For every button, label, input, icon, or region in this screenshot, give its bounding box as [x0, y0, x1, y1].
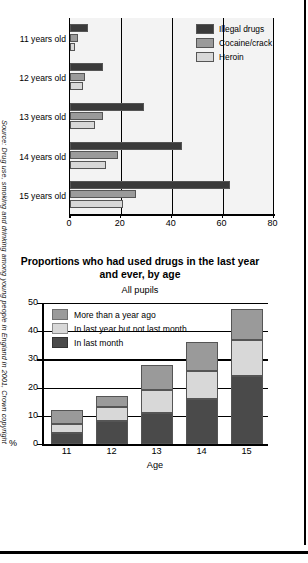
bottom-chart-bar-segment [96, 396, 128, 407]
top-chart-bar [70, 190, 136, 198]
top-chart-bar [70, 82, 83, 90]
top-chart-x-tick-label: 40 [166, 218, 176, 228]
legend-label-in-last-month: In last month [74, 338, 123, 348]
chart-page: 020406080 11 years old12 years old13 yea… [0, 0, 308, 563]
bottom-chart-bar-segment [96, 407, 128, 421]
bottom-chart-x-tick-label: 15 [241, 446, 251, 456]
legend-swatch-in-last-year-not-last-month [52, 323, 68, 334]
bottom-chart-bar-segment [141, 365, 173, 390]
top-chart-bar [70, 112, 103, 120]
legend-swatch-more-than-a-year-ago [52, 309, 68, 320]
top-chart-category-label: 11 years old [0, 34, 66, 44]
legend-swatch-cocaine-crack [196, 38, 214, 48]
top-chart-bar [70, 151, 118, 159]
bottom-chart-bar-segment [96, 421, 128, 444]
bottom-chart-bar-segment [141, 413, 173, 444]
legend-item-more-than-a-year-ago: More than a year ago [52, 309, 187, 320]
bottom-chart-x-tick-label: 11 [62, 446, 72, 456]
top-chart-x-tick-label: 20 [115, 218, 125, 228]
legend-item-in-last-year-not-last-month: In last year but not last month [52, 323, 187, 334]
top-chart-x-tick-label: 80 [267, 218, 277, 228]
top-chart-bar [70, 121, 95, 129]
bottom-chart-bar-segment [141, 390, 173, 413]
top-chart: 020406080 11 years old12 years old13 yea… [0, 10, 276, 225]
legend-item-in-last-month: In last month [52, 337, 187, 348]
bottom-chart-bar-segment [51, 410, 83, 424]
legend-label-in-last-year-not-last-month: In last year but not last month [74, 324, 187, 334]
bottom-chart-bar-segment [231, 340, 263, 377]
top-chart-bar [70, 43, 75, 51]
source-note: Source: Drug use, smoking and drinking a… [0, 120, 9, 420]
bottom-chart-bar-segment [231, 376, 263, 444]
bottom-chart-legend: More than a year ago In last year but no… [52, 309, 187, 351]
frame-right-rule [304, 0, 306, 545]
legend-item-cocaine-crack: Cocaine/crack [196, 38, 272, 48]
legend-label-heroin: Heroin [219, 52, 244, 62]
top-chart-category-label: 15 years old [0, 191, 66, 201]
bottom-chart-bar-segment [186, 371, 218, 399]
bottom-chart: Proportions who had used drugs in the la… [0, 255, 276, 540]
top-chart-x-tick-label: 60 [217, 218, 227, 228]
bottom-chart-y-unit-label: % [9, 438, 17, 448]
top-chart-bar [70, 73, 85, 81]
legend-item-illegal-drugs: Illegal drugs [196, 24, 272, 34]
bottom-chart-bar-segment [186, 399, 218, 444]
legend-item-heroin: Heroin [196, 52, 272, 62]
legend-swatch-illegal-drugs [196, 24, 214, 34]
page-title: Proportions who had used drugs in the la… [14, 255, 266, 281]
top-chart-bar [70, 34, 78, 42]
top-chart-bar [70, 200, 123, 208]
top-chart-x-tick-label: 0 [66, 218, 71, 228]
top-chart-bar [70, 181, 230, 189]
bottom-chart-x-axis-title: Age [42, 460, 268, 470]
bottom-chart-bar-segment [231, 309, 263, 340]
top-chart-category-label: 12 years old [0, 73, 66, 83]
bottom-chart-bar-segment [186, 342, 218, 370]
top-chart-bar [70, 142, 182, 150]
bottom-chart-x-tick-label: 13 [151, 446, 161, 456]
legend-swatch-in-last-month [52, 337, 68, 348]
chart-subtitle: All pupils [14, 285, 266, 295]
legend-label-cocaine-crack: Cocaine/crack [219, 38, 272, 48]
top-chart-bar [70, 63, 103, 71]
top-chart-bar [70, 24, 88, 32]
bottom-chart-x-tick-label: 12 [106, 446, 116, 456]
bottom-chart-bar-segment [51, 433, 83, 444]
legend-label-illegal-drugs: Illegal drugs [219, 24, 264, 34]
top-chart-category-label: 13 years old [0, 112, 66, 122]
top-chart-category-label: 14 years old [0, 152, 66, 162]
top-chart-bar [70, 103, 144, 111]
legend-swatch-heroin [196, 52, 214, 62]
legend-label-more-than-a-year-ago: More than a year ago [74, 310, 156, 320]
top-chart-legend: Illegal drugs Cocaine/crack Heroin [196, 24, 272, 66]
top-chart-bar [70, 161, 106, 169]
frame-bottom-rule [0, 551, 308, 554]
bottom-chart-x-tick-label: 14 [196, 446, 206, 456]
bottom-chart-bar-segment [51, 424, 83, 432]
